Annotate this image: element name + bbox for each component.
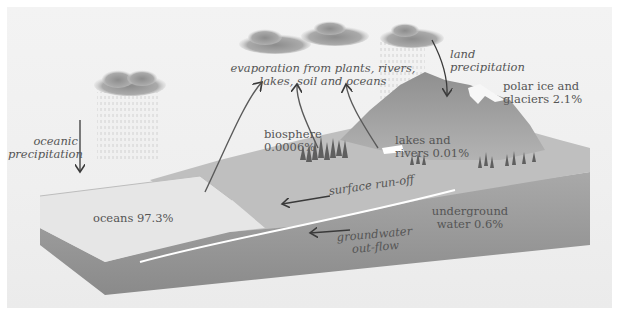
lakes-rivers-line2: rivers 0.01% [395, 147, 469, 160]
biosphere-label: biosphere 0.0006% [264, 128, 322, 154]
cloud-icon [239, 29, 311, 54]
cloud-icon [301, 21, 369, 46]
oceanic-precipitation-line2: precipitation [8, 148, 78, 161]
oceanic-precipitation-label: oceanic precipitation [8, 135, 78, 161]
biosphere-line2: 0.0006% [264, 141, 322, 154]
evaporation-label: evaporation from plants, rivers, lakes, … [218, 62, 428, 88]
lakes-rivers-label: lakes and rivers 0.01% [395, 134, 469, 160]
polar-ice-label: polar ice and glaciers 2.1% [503, 80, 582, 106]
ocean-rain [97, 92, 159, 160]
underground-water-line2: water 0.6% [425, 218, 515, 231]
oceans-label: oceans 97.3% [93, 212, 174, 225]
water-cycle-illustration [0, 0, 620, 316]
evaporation-label-line2: lakes, soil and oceans [218, 75, 428, 88]
land-precipitation-label: land precipitation [450, 48, 525, 74]
land-precipitation-line2: precipitation [450, 61, 525, 74]
cloud-icon [94, 70, 166, 96]
underground-water-label: underground water 0.6% [425, 205, 515, 231]
polar-ice-line2: glaciers 2.1% [503, 93, 582, 106]
